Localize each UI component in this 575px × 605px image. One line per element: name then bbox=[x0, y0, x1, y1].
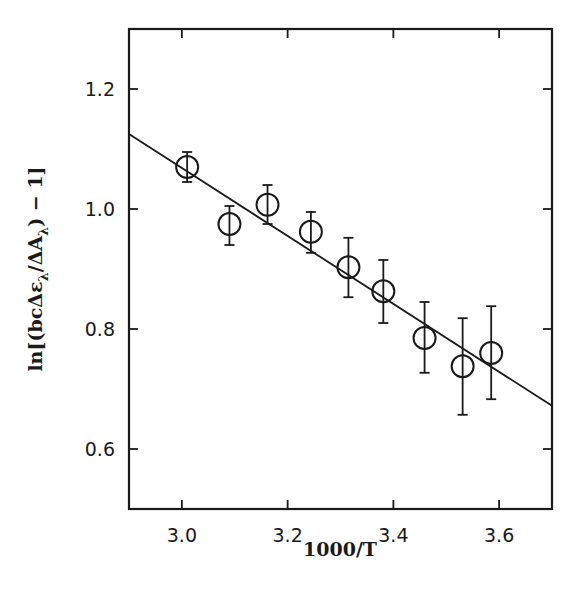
data-point bbox=[372, 260, 394, 323]
data-point bbox=[337, 238, 359, 297]
x-tick-label: 3.2 bbox=[273, 524, 303, 546]
x-tick-label: 3.4 bbox=[378, 524, 408, 546]
tick-labels: 3.03.23.43.60.60.81.01.2 bbox=[85, 78, 514, 546]
x-tick-label: 3.0 bbox=[167, 524, 197, 546]
y-axis-title: ln[(bcΔελ/ΔAλ) − 1] bbox=[24, 166, 51, 371]
open-circle-marker bbox=[452, 355, 474, 377]
open-circle-marker bbox=[257, 194, 279, 216]
y-tick-label: 0.6 bbox=[85, 438, 115, 460]
y-tick-label: 1.2 bbox=[85, 78, 115, 100]
y-tick-label: 1.0 bbox=[85, 198, 115, 220]
data-point bbox=[176, 152, 198, 182]
open-circle-marker bbox=[414, 327, 436, 349]
open-circle-marker bbox=[372, 280, 394, 302]
open-circle-marker bbox=[480, 342, 502, 364]
open-circle-marker bbox=[300, 221, 322, 243]
x-axis-title: 1000/T bbox=[303, 538, 377, 560]
open-circle-marker bbox=[337, 256, 359, 278]
chart: 3.03.23.43.60.60.81.01.2 1000/T ln[(bcΔε… bbox=[0, 0, 575, 605]
data-point bbox=[218, 206, 240, 245]
data-point bbox=[414, 302, 436, 373]
data-point bbox=[480, 306, 502, 399]
open-circle-marker bbox=[176, 156, 198, 178]
x-tick-label: 3.6 bbox=[484, 524, 514, 546]
data-points bbox=[176, 152, 502, 415]
data-point bbox=[452, 318, 474, 415]
y-tick-label: 0.8 bbox=[85, 318, 115, 340]
open-circle-marker bbox=[218, 213, 240, 235]
